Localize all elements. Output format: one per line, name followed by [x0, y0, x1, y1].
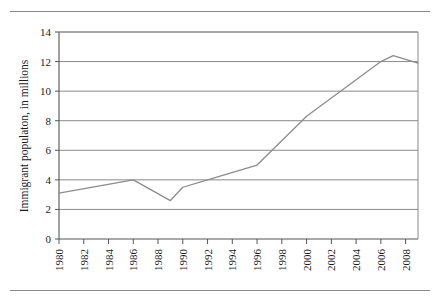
y-tick-label-14: 14 [40, 26, 52, 38]
x-tick-label-1992: 1992 [202, 249, 214, 271]
chart-figure: 1980198219841986198819901992199419961998… [0, 0, 440, 300]
x-tick-label-2002: 2002 [325, 249, 337, 271]
x-tick-label-2000: 2000 [301, 249, 313, 272]
x-tick-label-1998: 1998 [276, 249, 288, 272]
axis-lines-group [59, 32, 418, 239]
y-tick-label-12: 12 [40, 56, 51, 68]
x-tick-label-2004: 2004 [350, 249, 362, 272]
x-tick-label-2008: 2008 [400, 249, 412, 272]
y-tick-label-4: 4 [46, 174, 52, 186]
y-tick-label-10: 10 [40, 85, 52, 97]
x-tick-label-1986: 1986 [127, 249, 139, 272]
x-tick-label-1980: 1980 [53, 249, 65, 272]
data-series-group [59, 56, 418, 201]
line-chart-plot: 1980198219841986198819901992199419961998… [0, 0, 440, 300]
x-tick-label-1990: 1990 [177, 249, 189, 272]
y-axis-tick-labels-group: 02468101214 [40, 26, 52, 245]
series-line-0 [59, 56, 418, 201]
x-tick-label-1984: 1984 [103, 249, 115, 272]
y-axis-ticks-group [55, 32, 59, 239]
gridlines-group [59, 32, 418, 209]
y-axis-title: Immigrant populaton, in millions [18, 59, 31, 212]
y-tick-label-6: 6 [46, 144, 52, 156]
y-tick-label-2: 2 [46, 203, 52, 215]
x-tick-label-1994: 1994 [226, 249, 238, 272]
y-axis-title-group: Immigrant populaton, in millions [18, 59, 31, 212]
x-tick-label-1988: 1988 [152, 249, 164, 272]
y-tick-label-0: 0 [46, 233, 52, 245]
x-tick-label-1982: 1982 [78, 249, 90, 271]
x-axis-ticks-group [59, 239, 406, 244]
x-tick-label-1996: 1996 [251, 249, 263, 272]
x-axis-tick-labels-group: 1980198219841986198819901992199419961998… [53, 249, 412, 272]
y-tick-label-8: 8 [46, 115, 52, 127]
x-tick-label-2006: 2006 [375, 249, 387, 272]
